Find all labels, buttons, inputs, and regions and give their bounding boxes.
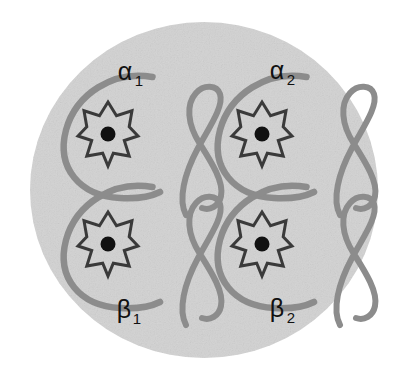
subunit-beta-1-subscript: 1	[133, 310, 141, 327]
cell-ellipse-fill	[30, 22, 378, 358]
subunit-beta-2-label: β	[270, 294, 284, 322]
subunit-beta-1-label: β	[117, 295, 131, 323]
hemoglobin-diagram: α 1 α 2 β 1 β 2	[0, 0, 409, 381]
subunit-alpha-2-label: α	[270, 56, 284, 84]
cell-ellipse	[30, 22, 378, 358]
subunit-alpha-1-subscript: 1	[135, 72, 143, 89]
subunit-alpha-2-subscript: 2	[287, 71, 295, 88]
subunit-alpha-1-label: α	[118, 57, 132, 85]
figure-root: α 1 α 2 β 1 β 2	[0, 0, 409, 381]
subunit-beta-2-subscript: 2	[287, 309, 295, 326]
